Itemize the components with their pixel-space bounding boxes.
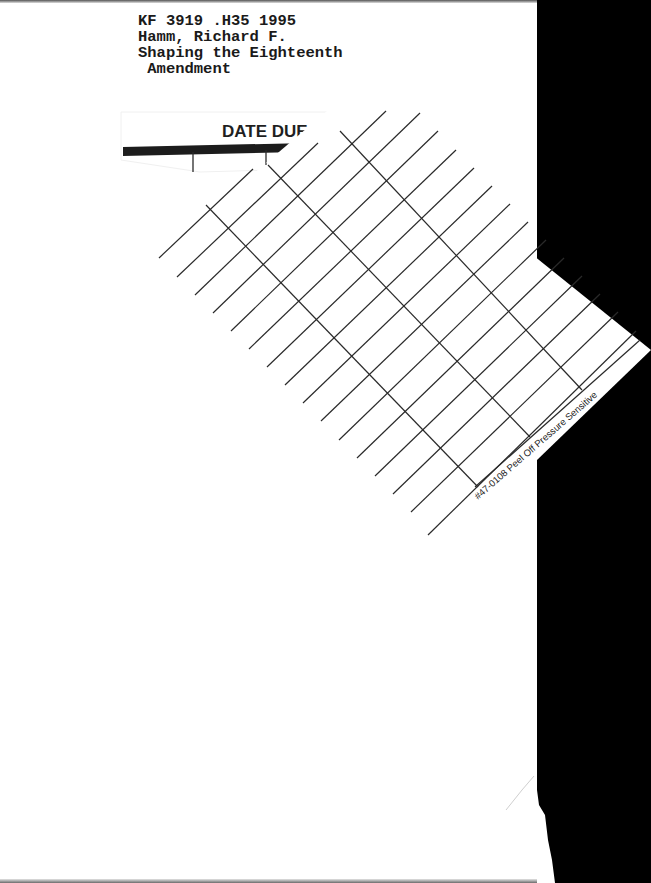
date-due-slip: DATE DUE #47-0108 Peel Off Pressure Sens… — [0, 0, 651, 883]
date-due-heading: DATE DUE — [222, 122, 308, 141]
scanned-page: KF 3919 .H35 1995 Hamm, Richard F. Shapi… — [0, 0, 651, 883]
bottom-scan-edge — [0, 879, 537, 883]
page-crease — [506, 776, 534, 810]
